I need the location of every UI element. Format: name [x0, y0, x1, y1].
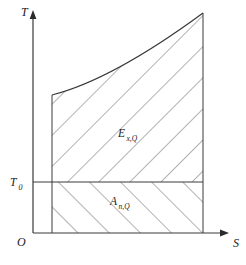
y-axis-arrow-icon [30, 10, 37, 19]
figure-root: T S O T 0 E x,Q A n,Q [0, 0, 246, 265]
origin-label: O [17, 235, 26, 249]
exergy-label-sub: x,Q [126, 134, 138, 143]
ts-diagram: T S O T 0 E x,Q A n,Q [0, 0, 246, 265]
y-axis-label: T [21, 5, 29, 19]
x-axis-arrow-icon [220, 230, 229, 237]
anergy-label-main: A [109, 195, 118, 207]
x-axis-label: S [233, 236, 239, 250]
t0-tick-label-main: T [10, 176, 18, 188]
t0-tick-label-sub: 0 [19, 183, 23, 192]
t0-tick-label: T 0 [10, 176, 23, 192]
exergy-label-main: E [117, 127, 125, 139]
anergy-label-sub: n,Q [119, 202, 131, 211]
